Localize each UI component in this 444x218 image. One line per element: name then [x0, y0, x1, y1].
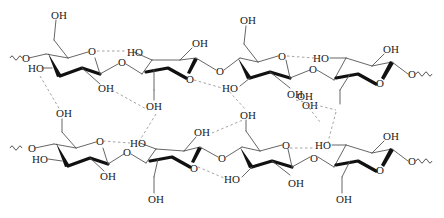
oh-label: OH: [194, 126, 210, 138]
bond: [108, 154, 124, 164]
bond: [35, 144, 54, 148]
bond: [392, 62, 408, 74]
wavy-terminus-right-bottom: [416, 159, 432, 163]
ring-wedge: [191, 147, 202, 163]
ring-o-label: O: [96, 135, 104, 147]
hydrogen-bond: [40, 76, 60, 110]
ring-bond: [68, 52, 88, 58]
wavy-terminus-left-bottom: [10, 146, 22, 150]
bond: [317, 70, 334, 80]
glucose-ring-top-2: OH O HO OH: [126, 37, 216, 112]
terminal-o-right-bottom: O: [408, 155, 416, 167]
ring-o-label: O: [186, 73, 194, 85]
ring-o-label: O: [88, 45, 96, 57]
oh-label: OH: [56, 107, 72, 119]
wavy-terminus-left-top: [10, 56, 22, 60]
ho-label: HO: [315, 139, 331, 151]
bond: [126, 64, 142, 74]
ho-label: HO: [127, 46, 143, 58]
ring-o-label: O: [282, 139, 290, 151]
bond: [224, 58, 240, 70]
top-chain: O OH O HO OH O: [10, 9, 432, 112]
ring-bold-bond: [60, 68, 100, 76]
bottom-chain: O OH O HO OH O: [10, 99, 432, 205]
ring-bond: [346, 58, 372, 66]
hydrogen-bond: [194, 80, 222, 88]
oh-label: OH: [383, 130, 399, 142]
oh-label: OH: [146, 100, 162, 112]
hydrogen-bond: [212, 120, 243, 133]
hydrogen-bond: [198, 167, 224, 178]
ring-bold-bond: [150, 157, 190, 167]
ch2-bond: [54, 20, 56, 40]
bond: [180, 48, 192, 60]
oh-label: OH: [192, 37, 208, 49]
hydrogen-bond: [140, 114, 156, 140]
bond: [48, 159, 62, 161]
oh-label: OH: [240, 14, 256, 26]
bond: [242, 167, 252, 177]
oh-label: OH: [98, 82, 114, 94]
glycosidic-o-top-3: O: [309, 63, 317, 75]
bond: [100, 64, 118, 74]
ch2-bond: [244, 26, 246, 44]
ring-bond: [346, 145, 372, 153]
ring-bold-bond: [336, 161, 376, 171]
ring-bold-bond: [146, 68, 186, 78]
ring-o-label: O: [376, 164, 384, 176]
glucose-ring-bottom-1: OH O HO OH: [32, 107, 124, 182]
bond: [392, 149, 408, 161]
ho-label: HO: [32, 153, 48, 165]
terminal-o-right-top: O: [408, 68, 416, 80]
ho-label: HO: [313, 52, 329, 64]
glycosidic-o-top-2: O: [216, 65, 224, 77]
glycosidic-o-bottom-2: O: [218, 152, 226, 164]
ch2-bond: [54, 40, 68, 58]
glucose-ring-top-3: OH O HO OH: [222, 14, 310, 100]
hydrogen-bond: [328, 112, 336, 142]
bond: [29, 54, 46, 58]
glucose-ring-top-1: OH O HO OH: [28, 9, 118, 94]
ring-bond: [286, 60, 290, 78]
bond: [200, 147, 218, 157]
bond: [318, 157, 334, 167]
ring-bold-bond: [68, 158, 108, 166]
hydrogen-bond: [112, 90, 148, 110]
hydrogen-bond: [287, 56, 314, 58]
ring-o-label: O: [278, 50, 286, 62]
ring-wedge: [187, 58, 198, 74]
ring-bond: [76, 142, 96, 148]
ring-bond: [258, 56, 278, 62]
ring-bold-bond: [336, 74, 376, 84]
oh-label: OH: [148, 193, 164, 205]
cellulose-structure-diagram: O OH O HO OH O: [0, 0, 444, 218]
ring-o-label: O: [376, 77, 384, 89]
wavy-terminus-right-top: [416, 72, 432, 76]
ring-bond: [260, 145, 282, 151]
bond: [290, 70, 310, 78]
oh-label: OH: [336, 193, 352, 205]
bond: [131, 154, 146, 163]
ring-bond: [156, 149, 184, 151]
glycosidic-o-bottom-3: O: [310, 152, 318, 164]
ring-bold-bond: [252, 161, 292, 167]
bond: [240, 78, 250, 86]
oh-label: OH: [383, 43, 399, 55]
glucose-ring-bottom-2: OH O HO OH: [130, 126, 218, 205]
ring-wedge: [238, 58, 252, 79]
ho-label: HO: [224, 173, 240, 185]
ring-wedge: [240, 147, 254, 168]
bond: [196, 58, 216, 70]
ring-o-label: O: [190, 162, 198, 174]
oh-label: OH: [51, 9, 67, 21]
glucose-ring-bottom-3: OH O HO OH: [224, 109, 310, 189]
ring-bond: [288, 149, 292, 167]
bond: [226, 147, 242, 157]
ho-label: HO: [130, 137, 146, 149]
oh-label: OH: [288, 177, 304, 189]
glycosidic-o-top-1: O: [118, 56, 126, 68]
oh-label: OH: [240, 109, 256, 121]
oh-label: OH: [100, 170, 116, 182]
ring-bold-bond: [250, 72, 290, 78]
bond: [292, 157, 310, 167]
